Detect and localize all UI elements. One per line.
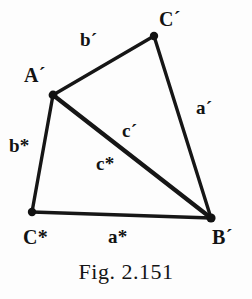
edge-line-a-star xyxy=(32,212,211,218)
vertex-label-a-prime: A´ xyxy=(24,65,46,85)
edge-label-a-prime: a´ xyxy=(196,98,212,117)
edge-line-b-star xyxy=(32,95,53,212)
vertex-label-c-prime: C´ xyxy=(159,9,181,29)
edge-line-c-diagonal xyxy=(53,95,211,218)
vertex-dot-b-prime xyxy=(206,213,215,222)
vertex-label-b-prime: B´ xyxy=(212,227,233,247)
edge-line-a-prime xyxy=(154,36,211,218)
figure-container: C´ A´ C* B´ b´ a´ b* a* c´ c* Fig. 2.151 xyxy=(0,0,252,299)
vertex-dot-c-star xyxy=(28,208,36,216)
quadrilateral-diagram xyxy=(0,0,252,299)
edge-line-b-prime xyxy=(53,36,154,95)
vertex-dot-c-prime xyxy=(150,32,158,40)
edge-label-b-prime: b´ xyxy=(80,30,97,49)
edge-label-b-star: b* xyxy=(9,136,29,155)
edge-label-c-prime: c´ xyxy=(122,121,137,140)
edge-label-c-star: c* xyxy=(96,154,114,173)
vertex-label-c-star: C* xyxy=(23,227,48,247)
vertex-dot-a-prime xyxy=(49,91,58,100)
edge-label-a-star: a* xyxy=(108,227,127,246)
figure-caption: Fig. 2.151 xyxy=(0,259,252,285)
